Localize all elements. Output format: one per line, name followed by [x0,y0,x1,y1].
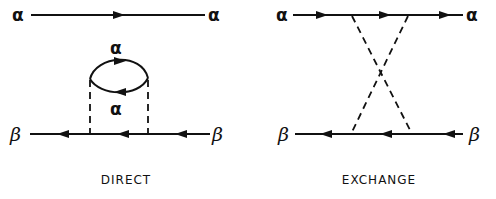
exchange-top-arrow-right-2 [379,11,391,19]
direct-loop-top-label: α [110,38,122,58]
exchange-bottom-arrow-left-2 [380,130,392,138]
feynman-diagrams: α α α α β β DIRECT α α [0,0,496,199]
direct-top-left-label: α [12,5,24,25]
exchange-caption: EXCHANGE [342,173,416,187]
exchange-interaction-line-2 [351,16,408,134]
exchange-top-arrow-right-1 [316,11,328,19]
exchange-interaction-line-1 [352,16,412,134]
direct-top-right-label: α [208,5,220,25]
exchange-top-arrow-right-3 [439,11,451,19]
direct-diagram: α α α α β β DIRECT [9,5,223,187]
exchange-bottom-arrow-left-1 [320,130,332,138]
direct-bottom-arrow-left-1 [57,130,69,138]
direct-bottom-right-label: β [211,123,223,145]
direct-bottom-left-label: β [9,123,21,145]
direct-loop-bottom-label: α [110,99,122,119]
exchange-bottom-arrow-left-3 [443,130,455,138]
exchange-top-right-label: α [466,5,478,25]
direct-top-arrow-right [113,11,125,19]
exchange-top-left-label: α [276,5,288,25]
direct-caption: DIRECT [101,173,151,187]
direct-bottom-arrow-left-3 [175,130,187,138]
exchange-bottom-right-label: β [468,123,480,145]
direct-loop-lower-arc [90,78,148,92]
direct-loop-bottom-arrow-left [114,88,126,96]
direct-bottom-arrow-left-2 [117,130,129,138]
exchange-diagram: α α β β EXCHANGE [276,5,480,187]
exchange-bottom-left-label: β [277,123,289,145]
direct-loop-top-arrow-right [114,57,126,65]
